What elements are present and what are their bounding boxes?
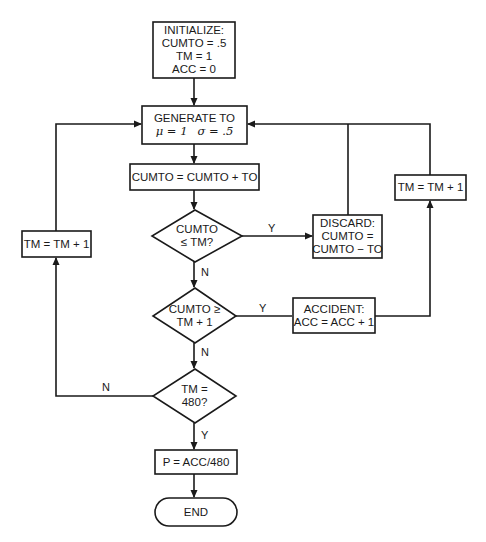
init-line-1: INITIALIZE: — [164, 24, 224, 37]
discard-line-2: CUMTO = — [322, 230, 374, 243]
accumulate-label: CUMTO = CUMTO + TO — [130, 164, 259, 190]
generate-params: μ = 1σ = .5 — [156, 125, 234, 138]
decision3-yes-label: Y — [201, 429, 208, 441]
init-line-4: ACC = 0 — [172, 63, 216, 76]
decision3-line-2: 480? — [182, 396, 208, 409]
decision2-line-2: TM + 1 — [176, 316, 212, 329]
accident-line-2: ACC = ACC + 1 — [294, 316, 375, 329]
decision1-label: CUMTO ≤ TM? — [152, 222, 242, 250]
end-text: END — [184, 506, 208, 519]
discard-line-3: CUMTO − TO — [312, 243, 383, 256]
decision3-line-1: TM = — [181, 383, 208, 396]
increment-left-text: TM = TM + 1 — [24, 238, 90, 251]
result-label: P = ACC/480 — [155, 450, 237, 474]
decision3-no-label: N — [102, 381, 110, 393]
accident-label: ACCIDENT: ACC = ACC + 1 — [293, 298, 375, 333]
init-label: INITIALIZE: CUMTO = .5 TM = 1 ACC = 0 — [153, 22, 235, 78]
result-text: P = ACC/480 — [163, 456, 230, 469]
increment-right-text: TM = TM + 1 — [398, 181, 464, 194]
accumulate-text: CUMTO = CUMTO + TO — [132, 171, 258, 184]
accident-line-1: ACCIDENT: — [304, 303, 365, 316]
decision1-no-label: N — [201, 266, 209, 278]
discard-line-1: DISCARD: — [320, 217, 375, 230]
generate-label: GENERATE TO μ = 1σ = .5 — [142, 106, 247, 144]
generate-sigma: σ = .5 — [197, 124, 233, 138]
decision1-line-2: ≤ TM? — [181, 236, 213, 249]
decision3-label: TM = 480? — [153, 382, 236, 410]
decision2-label: CUMTO ≥ TM + 1 — [153, 302, 236, 330]
discard-label: DISCARD: CUMTO = CUMTO − TO — [313, 215, 382, 258]
decision2-yes-label: Y — [259, 302, 266, 314]
decision2-line-1: CUMTO ≥ — [169, 303, 220, 316]
decision2-no-label: N — [201, 346, 209, 358]
init-line-2: CUMTO = .5 — [162, 37, 227, 50]
increment-right-label: TM = TM + 1 — [395, 175, 466, 200]
init-line-3: TM = 1 — [176, 50, 212, 63]
flowchart-canvas — [0, 0, 486, 542]
end-label: END — [155, 498, 237, 526]
decision1-yes-label: Y — [268, 222, 275, 234]
increment-left-label: TM = TM + 1 — [22, 231, 91, 257]
generate-mu: μ = 1 — [156, 124, 188, 138]
decision1-line-1: CUMTO — [176, 223, 218, 236]
